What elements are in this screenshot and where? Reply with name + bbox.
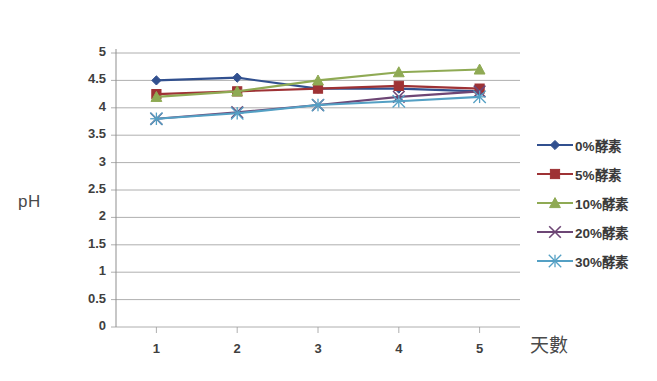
y-tick-label: 4 <box>64 99 106 114</box>
x-axis-ticks <box>156 327 479 333</box>
legend-item-4[interactable]: 30%酵素 <box>536 246 628 275</box>
series-2 <box>151 64 485 101</box>
y-tick-label: 3.5 <box>64 126 106 141</box>
legend: 0%酵素5%酵素10%酵素20%酵素30%酵素 <box>536 130 628 275</box>
y-tick-label: 2.5 <box>64 181 106 196</box>
data-point-marker <box>152 76 161 85</box>
legend-marker-triangle-icon <box>536 195 574 211</box>
legend-item-2[interactable]: 10%酵素 <box>536 188 628 217</box>
data-point-marker <box>394 81 403 90</box>
data-point-marker <box>312 99 324 111</box>
y-tick-label: 1.5 <box>64 236 106 251</box>
legend-label: 30%酵素 <box>575 251 628 271</box>
y-tick-label: 1 <box>64 263 106 278</box>
legend-marker-cross-icon <box>536 224 574 240</box>
data-point-marker <box>231 107 243 119</box>
legend-item-1[interactable]: 5%酵素 <box>536 159 628 188</box>
legend-item-0[interactable]: 0%酵素 <box>536 130 628 159</box>
legend-label: 0%酵素 <box>575 135 621 155</box>
y-tick-label: 3 <box>64 154 106 169</box>
data-point-marker <box>473 91 485 103</box>
data-point-marker <box>233 73 242 82</box>
x-tick-label: 1 <box>141 341 171 356</box>
legend-marker-diamond-icon <box>536 137 574 153</box>
x-tick-label: 2 <box>222 341 252 356</box>
y-tick-label: 5 <box>64 44 106 59</box>
data-point-marker <box>150 113 162 125</box>
legend-marker-asterisk-icon <box>536 253 574 269</box>
legend-item-3[interactable]: 20%酵素 <box>536 217 628 246</box>
data-point-marker <box>550 169 559 178</box>
legend-label: 20%酵素 <box>575 222 628 242</box>
data-point-marker <box>549 254 561 266</box>
legend-label: 5%酵素 <box>575 164 621 184</box>
y-tick-label: 0 <box>64 318 106 333</box>
x-tick-label: 5 <box>465 341 495 356</box>
x-tick-label: 4 <box>384 341 414 356</box>
data-point-marker <box>550 140 559 149</box>
y-tick-label: 2 <box>64 208 106 223</box>
data-point-marker <box>393 95 405 107</box>
ph-line-chart: pH 天數 54.543.532.521.510.50 12345 0%酵素5%… <box>0 0 657 381</box>
y-tick-label: 0.5 <box>64 291 106 306</box>
data-series-group <box>150 64 486 125</box>
legend-label: 10%酵素 <box>575 193 628 213</box>
x-tick-label: 3 <box>303 341 333 356</box>
y-tick-label: 4.5 <box>64 71 106 86</box>
legend-marker-square-icon <box>536 166 574 182</box>
